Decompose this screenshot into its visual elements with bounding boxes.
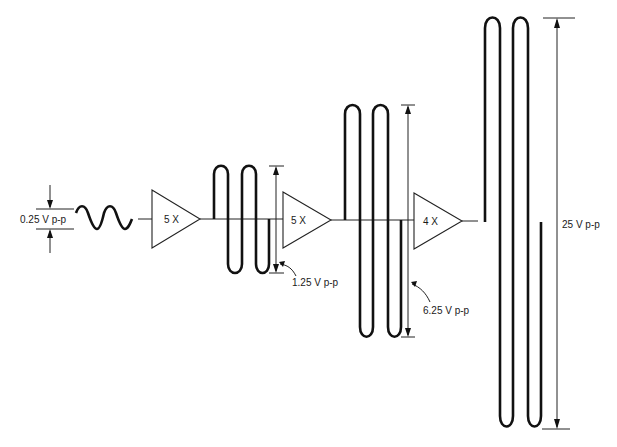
arrow-down-icon	[273, 264, 279, 273]
stage-1-gain-label: 5 X	[164, 214, 179, 225]
arrow-down-icon	[554, 419, 560, 429]
amplifier-stage-2: 5 X	[283, 192, 331, 248]
amplifier-stage-3: 4 X	[414, 193, 462, 249]
stage-3-amplitude-dimension: 25 V p-p	[542, 18, 600, 429]
input-amplitude-label: 0.25 V p-p	[20, 214, 67, 225]
arrow-up-icon	[554, 18, 560, 28]
arrow-up-icon	[47, 229, 53, 238]
stage-1-amplitude-label: 1.25 V p-p	[292, 277, 339, 288]
stage-2-output-waveform	[345, 105, 401, 337]
amplifier-stage-1: 5 X	[152, 190, 200, 248]
input-sine-wave	[76, 206, 132, 229]
stage-2-amplitude-label: 6.25 V p-p	[423, 305, 470, 316]
leader-arrow-icon	[279, 261, 285, 267]
stage-3-output-waveform	[485, 18, 541, 427]
input-signal: 0.25 V p-p	[20, 185, 152, 253]
arrow-up-icon	[273, 166, 279, 175]
arrow-up-icon	[405, 105, 411, 114]
arrow-down-icon	[47, 200, 53, 209]
stage-3-amplitude-label: 25 V p-p	[562, 219, 600, 230]
stage-3-gain-label: 4 X	[423, 216, 438, 227]
dim-2-leader-curve	[412, 284, 430, 302]
arrow-down-icon	[405, 328, 411, 337]
stage-2-gain-label: 5 X	[291, 215, 306, 226]
amplifier-chain-diagram: 0.25 V p-p 5 X 1.25 V p-p 5 X	[0, 0, 617, 447]
